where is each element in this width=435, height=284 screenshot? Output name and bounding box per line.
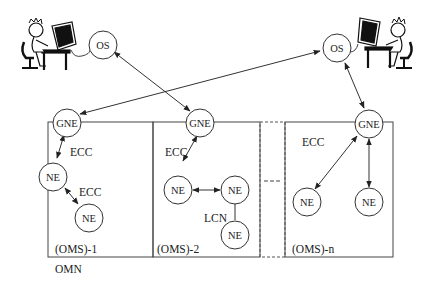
svg-text:NE: NE	[82, 213, 96, 224]
gne-2-node: GNE	[186, 109, 214, 137]
oms-1-label: (OMS)-1	[55, 243, 97, 256]
gne-1-node: GNE	[53, 109, 81, 137]
svg-text:NE: NE	[46, 172, 60, 183]
os-right-node: OS	[323, 34, 351, 62]
ne-na-node: NE	[293, 188, 321, 216]
oms-2-label: (OMS)-2	[157, 243, 199, 256]
svg-text:OS: OS	[96, 40, 110, 51]
omn-label: OMN	[55, 263, 83, 275]
ne-1b-node: NE	[75, 204, 103, 232]
edge-gne1-ne1a	[57, 135, 64, 158]
ne-2a-node: NE	[164, 176, 192, 204]
oms-gap-box	[260, 122, 285, 257]
edge-ne1a-ne1b	[65, 188, 78, 204]
svg-text:GNE: GNE	[358, 119, 380, 130]
ne-2c-node: NE	[221, 221, 249, 249]
ecc-label-n: ECC	[302, 136, 325, 148]
svg-text:NE: NE	[171, 185, 185, 196]
ne-nb-node: NE	[355, 188, 383, 216]
oms-n-label: (OMS)-n	[292, 243, 334, 256]
svg-text:OS: OS	[330, 43, 344, 54]
ne-1a-node: NE	[39, 163, 67, 191]
os-left-node: OS	[89, 31, 117, 59]
lcn-label: LCN	[204, 212, 228, 224]
ecc-label-2: ECC	[165, 146, 188, 158]
svg-text:GNE: GNE	[189, 118, 211, 129]
ne-2b-node: NE	[221, 176, 249, 204]
operator-left-icon	[22, 18, 90, 70]
svg-text:NE: NE	[228, 230, 242, 241]
edge-os-right-gne-1	[80, 51, 320, 114]
network-diagram: OS OS GNE GNE GNE NE NE NE NE NE NE	[0, 0, 435, 284]
edge-os-right-gne-n	[345, 63, 364, 108]
ecc-label-1b: ECC	[79, 186, 102, 198]
operator-right-icon	[350, 17, 412, 68]
svg-text:NE: NE	[228, 185, 242, 196]
svg-text:GNE: GNE	[56, 118, 78, 129]
ecc-label-1a: ECC	[70, 146, 93, 158]
gne-n-node: GNE	[355, 110, 383, 138]
svg-text:NE: NE	[300, 197, 314, 208]
svg-text:NE: NE	[362, 197, 376, 208]
